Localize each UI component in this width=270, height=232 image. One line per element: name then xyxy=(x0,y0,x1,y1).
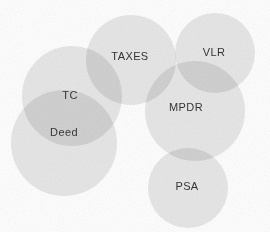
venn-canvas: TC Deed TAXES VLR MPDR PSA xyxy=(0,0,270,232)
set-label-deed: Deed xyxy=(50,126,78,138)
euler-diagram: TC Deed TAXES VLR MPDR PSA xyxy=(0,0,270,232)
set-circle-deed[interactable] xyxy=(11,90,117,196)
set-label-psa: PSA xyxy=(175,180,198,192)
set-label-mpdr: MPDR xyxy=(169,101,203,113)
set-label-taxes: TAXES xyxy=(111,50,148,62)
set-label-vlr: VLR xyxy=(203,46,226,58)
set-label-tc: TC xyxy=(62,89,77,101)
